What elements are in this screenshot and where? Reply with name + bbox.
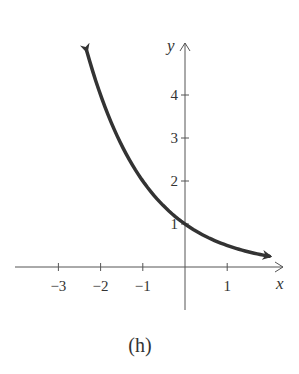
x-axis-label: x: [275, 274, 284, 293]
y-tick-label: 3: [171, 130, 179, 146]
y-tick-label: 4: [171, 87, 179, 103]
x-tick-label: −1: [135, 278, 151, 294]
y-tick-label: 2: [171, 173, 179, 189]
y-axis-label: y: [165, 36, 175, 55]
y-axis: 1234 y: [165, 36, 190, 310]
exponential-curve: [87, 51, 270, 256]
figure-caption: (h): [128, 334, 151, 357]
chart-canvas: −3−2−11 x 1234 y (h): [0, 0, 299, 374]
x-tick-label: −3: [50, 278, 66, 294]
x-axis: −3−2−11 x: [15, 262, 284, 294]
x-tick-label: 1: [223, 278, 231, 294]
y-ticks: 1234: [171, 87, 190, 232]
x-ticks: −3−2−11: [50, 263, 231, 294]
x-tick-label: −2: [93, 278, 109, 294]
